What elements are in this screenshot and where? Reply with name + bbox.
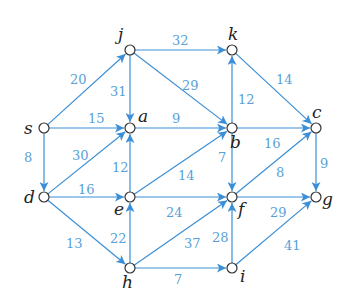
node-label-k: k [228,24,238,44]
edge-weight-i-f: 28 [212,230,229,245]
node-g [311,192,321,202]
node-label-a: a [138,106,148,126]
edge-weight-d-e: 16 [78,182,95,197]
edge-weight-i-g: 41 [284,238,301,253]
node-label-i: i [240,266,245,286]
node-label-h: h [122,272,133,292]
edge-weight-j-a: 31 [110,84,127,99]
edge-weight-f-c: 8 [276,165,284,180]
node-f [227,192,237,202]
node-e [125,192,135,202]
edge-weight-b-k: 12 [238,92,255,107]
node-label-b: b [230,132,241,152]
node-label-g: g [322,189,333,209]
edge-weight-e-a: 12 [112,160,129,175]
edge-weight-s-j: 20 [70,72,87,87]
edge-weight-j-b: 29 [182,78,199,93]
node-label-f: f [236,199,247,219]
edge-weight-d-h: 13 [66,236,83,251]
node-c [311,123,321,133]
node-a [125,123,135,133]
edge-weight-e-b: 14 [178,168,195,183]
node-label-j: j [114,24,124,44]
node-i [227,263,237,273]
edge-weight-h-i: 7 [174,272,182,287]
edge-weight-h-e: 22 [110,231,127,246]
node-label-e: e [114,199,124,219]
graph-diagram: 2015832312991214167930161312142482922377… [0,0,356,307]
edge-weight-a-b: 9 [172,111,180,126]
edge-weight-c-g: 9 [320,156,328,171]
edge-weight-e-f: 24 [166,205,183,220]
edge-weight-d-a: 30 [72,148,89,163]
node-label-d: d [24,187,35,207]
node-k [227,45,237,55]
edge-weight-h-f: 37 [184,236,201,251]
edge-weight-b-c: 16 [264,136,281,151]
edge-weight-j-k: 32 [172,33,189,48]
edge-weight-f-g: 29 [270,205,287,220]
edge-weight-k-c: 14 [276,72,293,87]
weights-layer: 2015832312991214167930161312142482922377… [24,33,328,287]
edge-k-c [236,53,312,124]
node-label-s: s [24,118,33,138]
edge-e-b [134,131,227,194]
edge-weight-s-d: 8 [24,150,32,165]
node-j [125,45,135,55]
node-d [39,192,49,202]
edge-weight-b-f: 7 [218,150,226,165]
node-label-c: c [312,102,322,122]
node-s [39,123,49,133]
edge-weight-s-a: 15 [88,111,105,126]
